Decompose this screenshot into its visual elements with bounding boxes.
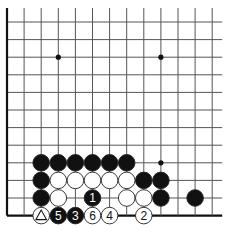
move-number-label: 4 [106,209,113,223]
black-stone [118,155,135,172]
black-stone [84,155,101,172]
white-stone [136,190,153,207]
go-board: 153642 [0,0,228,230]
move-number-label: 3 [72,209,79,223]
black-stone: 5 [50,207,67,224]
black-stone [153,172,170,189]
white-stone [118,172,135,189]
black-stone [136,172,153,189]
white-stone [50,172,67,189]
black-stone [153,190,170,207]
black-stone [33,190,50,207]
black-stone [33,172,50,189]
black-stone [187,190,204,207]
white-stone: 2 [136,207,153,224]
move-number-label: 5 [55,209,62,223]
black-stone [33,155,50,172]
black-stone [101,155,118,172]
star-point [158,55,163,60]
black-stone [67,155,84,172]
white-stone [67,172,84,189]
black-stone [50,155,67,172]
white-stone [101,172,118,189]
move-number-label: 1 [89,191,96,205]
white-stone: 4 [101,207,118,224]
star-point [56,55,61,60]
white-stone [118,190,135,207]
move-number-label: 2 [140,209,147,223]
black-stone: 1 [84,190,101,207]
white-stone [84,172,101,189]
white-stone [50,190,67,207]
move-number-label: 6 [89,209,96,223]
white-stone [33,207,50,224]
black-stone: 3 [67,207,84,224]
white-stone: 6 [84,207,101,224]
star-point [158,160,163,165]
